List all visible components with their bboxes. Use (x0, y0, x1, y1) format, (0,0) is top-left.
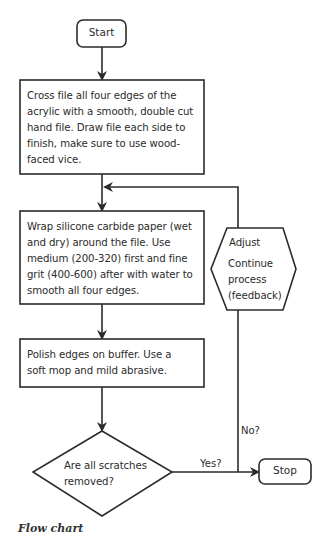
adjust-title: Adjust (229, 235, 289, 251)
no-edge-label: No? (241, 425, 260, 436)
step1-text: Cross file all four edges of the acrylic… (27, 88, 201, 168)
step3-text: Polish edges on buffer. Use a soft mop a… (27, 347, 187, 379)
step2-text: Wrap silicone carbide paper (wet and dry… (27, 219, 201, 299)
figure-caption: Flow chart (18, 522, 83, 535)
adjust-text: Continue process (feedback) (228, 256, 290, 304)
start-node: Start (77, 26, 126, 38)
decision-text: Are all scratches removed? (64, 458, 154, 490)
stop-node: Stop (259, 464, 311, 476)
yes-edge-label: Yes? (200, 458, 221, 469)
